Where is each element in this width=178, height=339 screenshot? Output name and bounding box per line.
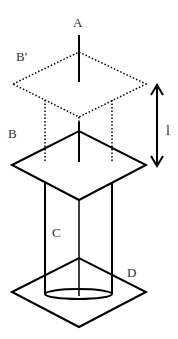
label-l: l <box>166 123 170 138</box>
label-b-prime: B' <box>16 49 27 64</box>
label-b: B <box>8 126 17 141</box>
label-a: A <box>73 15 83 30</box>
diagram: A B' B l C D <box>0 0 178 339</box>
label-c: C <box>52 225 61 240</box>
label-d: D <box>127 265 136 280</box>
distance-arrow-l <box>151 85 163 166</box>
